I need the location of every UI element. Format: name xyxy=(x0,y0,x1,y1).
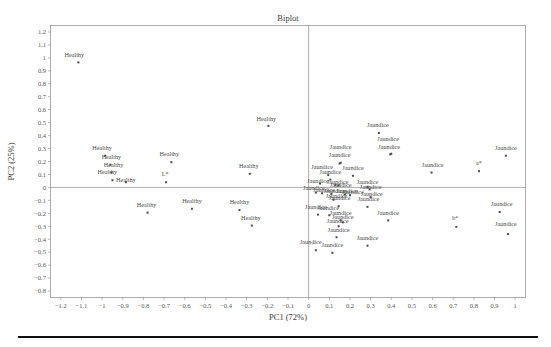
x-tick-label: −0.2 xyxy=(261,302,273,309)
x-tick-label: 1 xyxy=(514,302,517,309)
y-tick-label: −0.6 xyxy=(34,261,47,268)
data-point-label: Jaundice xyxy=(378,143,400,150)
y-tick-label: 0.7 xyxy=(38,93,47,100)
y-tick-label: −0.4 xyxy=(34,236,47,243)
data-point-label: Jaundice xyxy=(320,168,342,175)
y-tick-label: −0.5 xyxy=(34,248,46,255)
data-point-label: Healthy xyxy=(92,144,112,151)
y-tick-label: 0.6 xyxy=(38,106,47,113)
data-point-marker xyxy=(378,132,380,134)
x-tick-label: 0.4 xyxy=(387,302,396,309)
data-point-marker xyxy=(267,125,269,127)
y-tick-label: 1 xyxy=(43,54,46,61)
data-point-label: Healthy xyxy=(230,198,250,205)
x-tick-label: 0.9 xyxy=(490,302,498,309)
y-tick-label: 0.9 xyxy=(38,67,46,74)
data-point-label: Healthy xyxy=(97,168,117,175)
data-point-label: Jaundice xyxy=(422,161,444,168)
data-point-marker xyxy=(111,179,113,181)
data-point-label: Jaundice xyxy=(377,209,399,216)
data-point-marker xyxy=(77,61,79,63)
data-point-marker xyxy=(191,208,193,210)
x-tick-label: −0.4 xyxy=(220,302,233,309)
data-point-label: Jaundice xyxy=(307,177,329,184)
x-tick-label: −0.6 xyxy=(179,302,192,309)
data-point-label: Jaundice xyxy=(491,200,513,207)
y-tick-label: 0.1 xyxy=(38,171,46,178)
x-tick-label: 0 xyxy=(307,302,310,309)
y-tick-label: 0.4 xyxy=(38,132,47,139)
y-tick-label: −0.3 xyxy=(34,223,46,230)
data-point-marker xyxy=(387,219,389,221)
y-axis-title: PC2 (25%) xyxy=(6,142,16,180)
data-point-marker xyxy=(251,225,253,227)
data-point-label: Jaundice xyxy=(330,143,352,150)
y-tick-label: 0.2 xyxy=(38,158,46,165)
x-tick-label: −1 xyxy=(99,302,106,309)
y-tick-label: 0.3 xyxy=(38,145,46,152)
data-point-label: Jaundice xyxy=(328,226,350,233)
data-point-label: Jaundice xyxy=(342,164,364,171)
biplot-canvas: −1.2−1.1−1−0.9−0.8−0.7−0.6−0.5−0.4−0.3−0… xyxy=(0,0,551,347)
x-tick-label: −0.3 xyxy=(241,302,253,309)
y-tick-label: −0.7 xyxy=(34,274,47,281)
data-point-label: Healthy xyxy=(257,115,277,122)
y-tick-label: −0.2 xyxy=(34,210,46,217)
x-tick-label: −0.1 xyxy=(282,302,294,309)
data-point-label: Healthy xyxy=(102,153,122,160)
data-point-marker xyxy=(317,214,319,216)
data-point-label: Jaundice xyxy=(327,217,349,224)
y-tick-label: 0.5 xyxy=(38,119,46,126)
plot-title: Biplot xyxy=(277,13,299,23)
data-point-label: Healthy xyxy=(137,201,157,208)
data-point-marker xyxy=(315,249,317,251)
x-tick-label: 0.3 xyxy=(367,302,375,309)
x-tick-label: −0.8 xyxy=(138,302,150,309)
y-tick-label: −0.8 xyxy=(34,287,46,294)
variable-marker xyxy=(455,226,457,228)
variable-marker xyxy=(165,181,167,183)
x-tick-label: 0.6 xyxy=(429,302,438,309)
x-tick-label: 0.1 xyxy=(325,302,333,309)
x-axis-title: PC1 (72%) xyxy=(269,312,307,322)
bottom-divider-rule xyxy=(18,336,538,338)
data-point-marker xyxy=(147,212,149,214)
variable-marker xyxy=(478,170,480,172)
data-point-marker xyxy=(352,175,354,177)
data-point-marker xyxy=(331,252,333,254)
data-point-marker xyxy=(367,245,369,247)
x-tick-label: −0.5 xyxy=(199,302,211,309)
data-point-marker xyxy=(339,162,341,164)
data-point-marker xyxy=(336,236,338,238)
data-point-label: Healthy xyxy=(239,162,259,169)
variable-label: a* xyxy=(476,159,482,166)
x-tick-label: 0.2 xyxy=(346,302,354,309)
data-point-label: Jaundice xyxy=(495,144,517,151)
data-point-label: Healthy xyxy=(104,161,124,168)
y-tick-label: 1.1 xyxy=(38,41,46,48)
data-point-label: Jaundice xyxy=(300,238,322,245)
data-point-label: Healthy xyxy=(64,51,84,58)
data-point-marker xyxy=(170,161,172,163)
data-point-marker xyxy=(389,153,391,155)
x-tick-label: −1.1 xyxy=(76,302,88,309)
data-point-marker xyxy=(249,173,251,175)
data-point-marker xyxy=(505,155,507,157)
y-tick-label: 0.8 xyxy=(38,80,46,87)
x-tick-label: 0.7 xyxy=(449,302,458,309)
data-point-marker xyxy=(507,233,509,235)
x-tick-label: 0.8 xyxy=(470,302,478,309)
data-point-label: Healthy xyxy=(241,214,261,221)
data-point-label: Jaundice xyxy=(495,220,517,227)
x-tick-label: 0.5 xyxy=(408,302,416,309)
y-tick-label: −0.1 xyxy=(34,197,46,204)
x-tick-label: −1.2 xyxy=(55,302,67,309)
data-point-marker xyxy=(125,181,127,183)
data-point-marker xyxy=(431,172,433,174)
data-point-label: Jaundice xyxy=(329,194,351,201)
x-tick-label: −0.7 xyxy=(158,302,171,309)
data-point-label: Jaundice xyxy=(329,151,351,158)
data-point-marker xyxy=(367,206,369,208)
data-point-label: Healthy xyxy=(182,197,202,204)
data-point-marker xyxy=(238,209,240,211)
